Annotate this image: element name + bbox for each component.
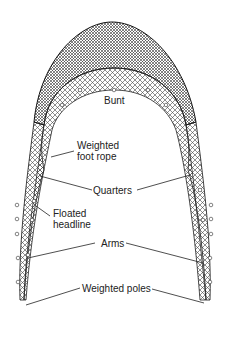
label-bunt: Bunt <box>104 95 125 106</box>
label-weighted-foot-rope-line2: foot rope <box>77 151 116 162</box>
label-arms: Arms <box>101 238 124 249</box>
label-quarters: Quarters <box>93 185 132 196</box>
label-weighted-foot-rope-line1: Weighted <box>77 140 119 151</box>
label-weighted-poles: Weighted poles <box>82 283 151 294</box>
label-floated-headline-line2: headline <box>53 219 91 230</box>
label-floated-headline-line1: Floated <box>53 208 86 219</box>
